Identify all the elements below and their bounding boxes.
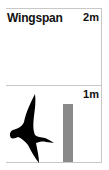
wingspan-bar: [63, 104, 73, 162]
chart-title: Wingspan: [7, 11, 63, 25]
tick-label-2m: 2m: [83, 11, 99, 23]
gridline-1m: [6, 85, 101, 86]
bird-silhouette-icon: [4, 94, 54, 164]
tick-label-1m: 1m: [83, 88, 99, 100]
